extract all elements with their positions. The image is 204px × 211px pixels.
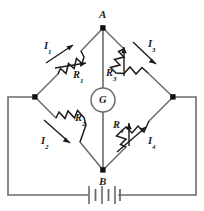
node-label-a: A — [99, 9, 106, 20]
node-b-dot — [100, 167, 105, 172]
arm-top-right — [103, 28, 124, 49]
arm-bottom-left-b — [80, 142, 103, 170]
node-left-dot — [32, 94, 37, 99]
resistor-label-r3: R3 — [106, 68, 117, 81]
resistor-label-r1: R1 — [73, 70, 84, 83]
node-label-b: B — [99, 176, 106, 187]
battery-symbol — [89, 186, 120, 204]
arm-top-left — [35, 74, 58, 97]
current-label-i1: I1 — [44, 41, 52, 54]
arm-bottom-right-b — [149, 97, 173, 121]
r1-variable-arrow-head — [80, 63, 87, 68]
circuit-diagram: A B G R1 R2 R3 R4 I1 I2 I3 I4 — [0, 0, 204, 211]
r4-variable-arrow-head — [126, 123, 132, 129]
node-right-dot — [170, 94, 175, 99]
resistor-label-r2: R2 — [75, 113, 86, 126]
i3-arrow-head — [149, 59, 156, 64]
galvanometer-label: G — [99, 95, 107, 106]
arm-top-right-b — [148, 73, 173, 97]
arm-top-left-b — [81, 28, 103, 51]
resistor-label-r4: R4 — [113, 120, 124, 133]
resistor-r1-variable-arrow — [55, 63, 86, 68]
arm-bottom-left — [35, 97, 56, 118]
arm-bottom-right — [103, 147, 126, 170]
current-label-i3: I3 — [148, 39, 156, 52]
i1-arrow-head — [66, 45, 73, 51]
current-label-i4: I4 — [148, 136, 156, 149]
current-label-i2: I2 — [41, 136, 49, 149]
node-a-dot — [100, 25, 105, 30]
